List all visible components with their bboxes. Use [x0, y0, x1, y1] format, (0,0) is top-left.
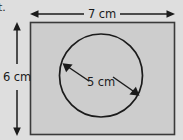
- figure-canvas: t. 7 cm: [0, 0, 183, 140]
- width-dimension-label: 7 cm: [88, 7, 116, 21]
- diameter-dimension-label: 5 cm: [87, 75, 115, 89]
- geometry-figure: t. 7 cm: [0, 0, 183, 140]
- question-number-label: t.: [0, 1, 6, 14]
- question-number-text: t.: [0, 1, 6, 14]
- height-dimension-label: 6 cm: [3, 70, 31, 84]
